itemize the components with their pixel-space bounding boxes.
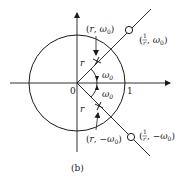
unit-label: 1 <box>127 86 133 96</box>
upper-zero-circle-icon <box>125 26 132 33</box>
angle-arrowhead-icon <box>95 85 99 90</box>
lower-ray <box>77 83 150 156</box>
lower-pole-cross-icon <box>95 102 103 110</box>
z-plane-figure: r r ω0 ω0 0 1 (r, ω0) (r, −ω0) ( 1 r , ω… <box>0 0 188 180</box>
svg-text:, −ω0): , −ω0) <box>147 131 175 142</box>
figure-caption: (b) <box>71 163 84 173</box>
angle-arrowhead-icon <box>95 76 99 81</box>
origin-label: 0 <box>70 86 76 96</box>
lower-angle-label: ω0 <box>102 89 113 100</box>
svg-text:, ω0): , ω0) <box>147 35 167 46</box>
lower-radius-label: r <box>80 104 85 114</box>
upper-radius-label: r <box>80 58 85 68</box>
lower-zero-label: ( 1 r , −ω0) <box>139 128 175 142</box>
upper-ray <box>77 9 151 83</box>
lower-pole-pointer <box>96 113 98 130</box>
pole-zero-diagram: r r ω0 ω0 0 1 (r, ω0) (r, −ω0) ( 1 r , ω… <box>0 0 188 180</box>
upper-pole-cross-icon <box>93 57 101 65</box>
lower-zero-circle-icon <box>127 133 134 140</box>
upper-zero-label: ( 1 r , ω0) <box>139 32 167 46</box>
upper-angle-label: ω0 <box>102 70 113 81</box>
lower-pole-label: (r, −ω0) <box>86 134 122 145</box>
upper-pole-label: (r, ω0) <box>86 24 114 35</box>
